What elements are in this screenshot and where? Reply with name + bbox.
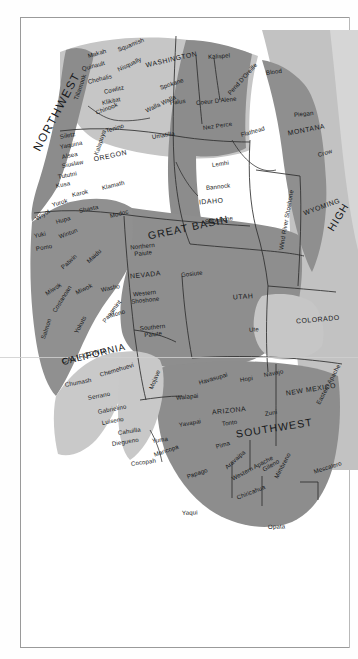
tribe-label: Northern Paiute — [121, 241, 164, 259]
tribe-label: Southern Paiute — [131, 322, 174, 340]
tribe-label: Hopi — [240, 375, 254, 383]
tribe-label: Chehalis — [87, 73, 112, 85]
tribe-label: Opata — [268, 523, 285, 530]
tribe-label: Navajo — [263, 368, 283, 378]
tribe-label: Mojave — [148, 369, 161, 390]
tribe-label: Patwin — [60, 253, 78, 270]
tribe-label: Siletz — [59, 131, 75, 140]
tribe-label: Chinook — [95, 102, 119, 116]
tribe-label: Cowlitz — [103, 84, 124, 95]
tribe-label: Piegan — [294, 110, 314, 118]
tribe-label: Yaquina — [59, 140, 82, 150]
tribe-label: Serrano — [87, 391, 110, 401]
tribe-label: Ute — [249, 326, 259, 333]
state-label: UTAH — [233, 293, 254, 301]
tribe-label: Umatilla — [152, 130, 175, 140]
tribe-label: Pima — [215, 440, 230, 450]
tribe-label: Maricopa — [153, 444, 179, 458]
tribe-label: Nez Perce — [203, 121, 233, 131]
state-label: WASHINGTON — [145, 51, 198, 70]
state-label: COLORADO — [296, 315, 340, 326]
tribe-label: Shasta — [78, 204, 98, 214]
tribe-label: Gosiute — [181, 270, 203, 278]
tribe-label: Chiricahua — [236, 484, 266, 501]
tribe-label: Western Shoshone — [123, 288, 166, 306]
tribe-label: Yaqui — [182, 509, 198, 516]
scanned-page: NORTHWESTGREAT BASINCALIFORNIASOUTHWESTH… — [0, 0, 358, 659]
tribe-label: Klamath — [101, 179, 125, 190]
state-label: ARIZONA — [212, 406, 247, 416]
tribe-label: Chumash — [64, 377, 91, 388]
tribe-label: Nisqually — [117, 56, 143, 73]
tribe-label: Mescalero — [313, 460, 342, 475]
tribe-label: Zuni — [264, 409, 277, 417]
tribe-label: Squamish — [117, 37, 145, 53]
state-label: NEVADA — [130, 270, 162, 280]
tribe-label: Lemhi — [212, 160, 230, 168]
tribe-label: Wiyot — [34, 208, 51, 222]
tribe-label: Flathead — [240, 125, 265, 138]
tribe-label: Siuslaw — [61, 159, 83, 169]
tribe-label: Quinault — [81, 60, 105, 72]
tribe-label: Wintun — [58, 227, 78, 240]
tribe-label: Karok — [71, 188, 88, 198]
tribe-label: Cocopah — [131, 457, 157, 467]
state-label: IDAHO — [199, 197, 224, 206]
tribe-label: Yuma — [152, 436, 169, 444]
tribe-label: Coeur D'Alene — [196, 96, 237, 106]
tribe-label: Maidu — [86, 248, 103, 264]
tribe-label: Diegueno — [112, 437, 140, 447]
tribe-label: Pend D'Oreille — [227, 62, 259, 96]
map-label-layer: NORTHWESTGREAT BASINCALIFORNIASOUTHWESTH… — [0, 0, 358, 659]
tribe-label: Walapai — [176, 393, 199, 401]
tribe-label: Yokuts — [73, 315, 87, 334]
tribe-label: Kalapuya — [93, 129, 107, 156]
tribe-label: Chemehuevi — [99, 362, 134, 378]
tribe-label: Luiseno — [101, 416, 124, 426]
tribe-label: Tonto — [222, 419, 238, 427]
tribe-label: Havasupai — [198, 371, 228, 386]
tribe-label: Papago — [186, 467, 208, 480]
tribe-label: Pomo — [35, 243, 52, 252]
tribe-label: Washo — [100, 283, 120, 293]
tribe-label: Hupa — [55, 215, 71, 225]
tribe-label: Mono — [109, 309, 126, 319]
state-label: MONTANA — [287, 123, 325, 137]
tribe-label: Kalispel — [208, 52, 231, 60]
culture-area-label: SOUTHWEST — [235, 417, 313, 440]
tribe-label: Crow — [317, 148, 333, 158]
tribe-label: Wind River Shoshone — [278, 190, 295, 251]
tribe-label: Blood — [266, 68, 283, 76]
tribe-label: Yavapai — [178, 418, 201, 428]
tribe-label: Bannock — [206, 182, 231, 191]
tribe-label: Yurok — [51, 198, 68, 208]
tribe-label: Gabrielino — [97, 404, 126, 415]
tribe-label: Yuki — [33, 231, 46, 239]
tribe-label: Spokane — [159, 77, 184, 91]
tribe-label: Cahuilla — [118, 426, 142, 436]
tribe-label: Salmon — [40, 318, 52, 340]
tribe-label: Tenino — [105, 123, 125, 134]
tribe-label: Modoc — [109, 208, 129, 218]
tribe-label: Kusa — [55, 180, 70, 189]
tribe-label: Makah — [87, 48, 107, 59]
tribe-label: Miwok — [75, 282, 94, 295]
